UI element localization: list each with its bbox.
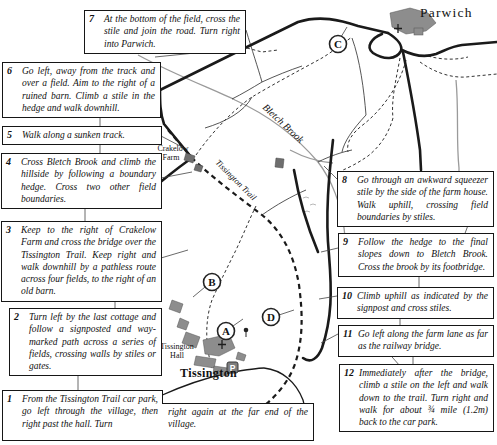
svg-text:C: C [334, 38, 342, 50]
crakelow-farm-label: Crakelow [157, 144, 188, 153]
svg-text:A: A [222, 325, 230, 337]
instruction-box-12: 12 Immediately after the bridge, climb a… [339, 364, 494, 432]
instruction-number: 12 [344, 367, 354, 379]
instruction-box-4: 4 Cross Bletch Brook and climb the hills… [1, 153, 162, 209]
instruction-box-5: 5 Walk along a sunken track. [2, 126, 162, 145]
tissington-hall-label: Tissington [160, 342, 194, 351]
svg-text:B: B [208, 276, 216, 288]
tissington-trail-label: Tissington Trail [214, 157, 259, 202]
instruction-box-1-continued: right again at the far end of the villag… [162, 403, 314, 441]
instruction-number: 2 [14, 311, 19, 323]
marker-b: B [204, 274, 221, 291]
instruction-text: At the bottom of the field, cross the st… [104, 13, 240, 50]
instruction-box-10: 10 Climb uphill as indicated by the sign… [337, 287, 494, 319]
instruction-text: right again at the far end of the villag… [168, 406, 308, 431]
bletch-brook-label: Bletch Brook [261, 101, 307, 145]
crakelow-farm-label-2: Farm [163, 153, 181, 162]
instruction-box-1: 1 From the Tissington Trail car park, go… [2, 390, 163, 441]
instruction-text: Climb uphill as indicated by the signpos… [357, 290, 488, 315]
marker-d: D [263, 309, 280, 326]
instruction-text: Follow the hedge to the final slopes dow… [358, 236, 488, 273]
instruction-box-9: 9 Follow the hedge to the final slopes d… [338, 233, 494, 277]
instruction-text: Go left, away from the track and over a … [22, 65, 155, 114]
instruction-text: Cross Bletch Brook and climb the hillsid… [21, 156, 156, 205]
instruction-box-8: 8 Go through an awkward squeezer stile b… [337, 171, 494, 227]
marsh-marks [303, 197, 316, 212]
instruction-number: 6 [7, 65, 12, 77]
instruction-text: Go left along the farm lane as far as th… [358, 328, 488, 353]
marker-c: C [330, 36, 347, 53]
instruction-number: 5 [7, 129, 12, 141]
instruction-text: Turn left by the last cottage and follow… [29, 311, 156, 372]
instruction-number: 8 [342, 174, 347, 186]
instruction-text: Walk along a sunken track. [22, 129, 156, 141]
walk-route-page: P Parwich C [0, 0, 497, 445]
instruction-text: From the Tissington Trail car park, go l… [22, 393, 158, 430]
tree-icon [244, 328, 249, 337]
crakelow-farm-buildings [184, 153, 284, 172]
tissington-hall-label-2: Hall [170, 351, 185, 360]
instruction-number: 3 [6, 224, 11, 236]
instruction-number: 4 [6, 156, 11, 168]
instruction-text: Go through an awkward squeezer stile by … [357, 174, 488, 223]
parwich-label: Parwich [420, 5, 473, 20]
instruction-box-6: 6 Go left, away from the track and over … [2, 62, 161, 118]
instruction-box-3: 3 Keep to the right of Crakelow Farm and… [1, 221, 162, 302]
instruction-box-11: 11 Go left along the farm lane as far as… [338, 325, 494, 357]
tissington-label: Tissington [180, 366, 237, 380]
instruction-text: Keep to the right of Crakelow Farm and c… [21, 224, 156, 298]
instruction-number: 9 [343, 236, 348, 248]
instruction-box-2: 2 Turn left by the last cottage and foll… [9, 308, 162, 376]
instruction-number: 10 [342, 290, 352, 302]
instruction-box-7: 7 At the bottom of the field, cross the … [84, 10, 246, 54]
instruction-number: 7 [89, 13, 94, 25]
svg-text:D: D [267, 311, 275, 323]
box-border-notch [162, 390, 164, 404]
marker-a: A [218, 323, 235, 340]
instruction-text: Immediately after the bridge, climb a st… [359, 367, 488, 428]
instruction-number: 11 [343, 328, 352, 340]
instruction-number: 1 [7, 393, 12, 405]
